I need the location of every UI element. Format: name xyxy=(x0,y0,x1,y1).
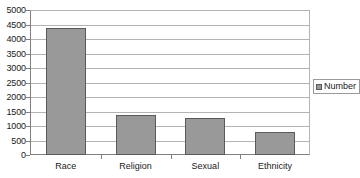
x-axis-label-ethnicity: Ethnicity xyxy=(240,161,310,172)
bars-layer xyxy=(31,10,310,155)
bar-slot xyxy=(171,10,241,155)
y-axis-label: 4000 xyxy=(0,35,26,44)
bar-slot xyxy=(101,10,171,155)
y-axis-label: 500 xyxy=(0,137,26,146)
y-axis-tick xyxy=(26,155,30,156)
y-axis-label: 2000 xyxy=(0,93,26,102)
legend-label-number: Number xyxy=(324,82,356,91)
bar-race[interactable] xyxy=(46,28,86,155)
bar-slot xyxy=(240,10,310,155)
bar-sexual[interactable] xyxy=(185,118,225,155)
x-axis-tick xyxy=(171,155,172,159)
y-axis-label: 0 xyxy=(0,151,26,160)
y-axis-label: 1500 xyxy=(0,108,26,117)
bar-slot xyxy=(31,10,101,155)
x-axis-tick xyxy=(240,155,241,159)
bar-religion[interactable] xyxy=(116,115,156,155)
y-axis-label: 2500 xyxy=(0,79,26,88)
legend[interactable]: Number xyxy=(313,79,360,94)
x-axis-tick xyxy=(101,155,102,159)
x-axis: Race Religion Sexual Ethnicity xyxy=(31,161,310,175)
x-axis-label-sexual: Sexual xyxy=(171,161,241,172)
y-axis-label: 4500 xyxy=(0,21,26,30)
bar-ethnicity[interactable] xyxy=(255,132,295,155)
y-axis-label: 3000 xyxy=(0,64,26,73)
y-axis: 5000 4500 4000 3500 3000 2500 2000 1500 … xyxy=(0,0,26,178)
x-axis-label-race: Race xyxy=(31,161,101,172)
y-axis-label: 3500 xyxy=(0,50,26,59)
y-axis-label: 5000 xyxy=(0,6,26,15)
y-axis-label: 1000 xyxy=(0,122,26,131)
x-axis-ticks xyxy=(31,155,310,160)
x-axis-label-religion: Religion xyxy=(101,161,171,172)
legend-swatch-icon xyxy=(316,84,322,90)
